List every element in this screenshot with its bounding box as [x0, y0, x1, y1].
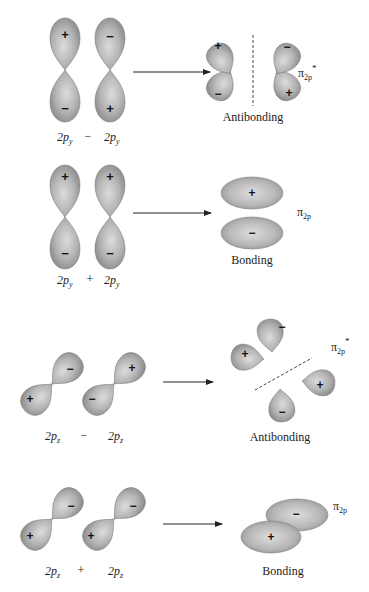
operator: − [85, 129, 92, 143]
panel-py-bonding: + − + − 2py + 2py + − Bonding π2p [50, 165, 311, 289]
sign-left-top: + [61, 169, 69, 184]
mo-sign-3: + [316, 378, 323, 392]
combination-label: 2py − 2py [57, 129, 120, 146]
mo-symbol: π2p [297, 205, 311, 221]
mo-sign-3: − [283, 40, 290, 54]
mo-sign-4: − [278, 405, 285, 419]
molecular-orbital: + − − + [202, 35, 305, 106]
molecular-orbital: − + + − [230, 318, 336, 423]
atomic-orbital-right: − + [95, 18, 125, 122]
sign-left-top: − [67, 499, 74, 513]
sign-left-bottom: + [26, 529, 33, 543]
sign-left-top: + [61, 27, 69, 42]
panel-pz-bonding: − + − + 2pz + 2pz − + Bonding π2p [15, 482, 347, 580]
operator: + [77, 562, 84, 577]
mo-type-label: Bonding [262, 564, 303, 578]
ao-label-left: 2p [57, 130, 69, 144]
atomic-orbital-left: − + [15, 482, 89, 556]
svg-text:2py: 2py [104, 130, 120, 146]
mo-sign-1: + [214, 39, 221, 53]
ao-label-left: 2p [45, 429, 57, 443]
operator: − [81, 428, 88, 442]
svg-text:2pz: 2pz [45, 429, 61, 445]
mo-type-label: Bonding [231, 253, 272, 267]
svg-text:2pz: 2pz [108, 564, 124, 580]
ao-label-right: 2p [108, 564, 120, 578]
atomic-orbital-right: − + [77, 482, 151, 556]
molecular-orbital: − + [241, 499, 328, 553]
svg-text:2py: 2py [57, 130, 73, 146]
mo-sign-2: − [214, 87, 221, 101]
mo-sign-front: + [267, 530, 274, 544]
nodal-plane [255, 358, 312, 390]
lobe-bottom [95, 217, 125, 269]
ao-label-right: 2p [108, 429, 120, 443]
mo-symbol: π2p* [298, 63, 317, 82]
sign-right-bottom: + [87, 529, 94, 543]
sign-left-bottom: − [61, 101, 69, 116]
combination-label: 2pz + 2pz [45, 562, 124, 580]
combination-label: 2py + 2py [57, 271, 120, 289]
sign-right-bottom: − [88, 392, 95, 406]
combination-label: 2pz − 2pz [45, 428, 124, 445]
lobe-top [95, 18, 125, 70]
sign-right-top: − [129, 499, 136, 513]
pi-orbital-diagram: + − − + 2py − 2py + − − + Antibonding π2… [0, 0, 369, 592]
mo-symbol: π2p [333, 499, 347, 515]
mo-sign-top: + [248, 186, 255, 200]
sign-right-top: + [128, 361, 135, 375]
atomic-orbital-left: + − [50, 165, 80, 269]
mo-sign-2: + [241, 347, 248, 361]
atomic-orbital-right: + − [95, 165, 125, 269]
atomic-orbital-left: − + [15, 347, 89, 421]
sign-left-bottom: − [61, 246, 69, 261]
mo-sign-1: − [278, 320, 285, 334]
sign-left-top: − [66, 362, 73, 376]
ao-label-left: 2p [45, 564, 57, 578]
mo-type-label: Antibonding [223, 110, 284, 124]
atomic-orbital-right: + − [77, 347, 151, 421]
molecular-orbital: + − [221, 177, 283, 249]
svg-text:2pz: 2pz [45, 564, 61, 580]
lobe-bottom [50, 217, 80, 269]
mo-sign-back: − [292, 507, 299, 521]
sign-right-top: − [106, 29, 114, 44]
svg-text:2pz: 2pz [108, 429, 124, 445]
svg-text:2py: 2py [104, 273, 120, 289]
ao-label-left: 2p [57, 273, 69, 287]
lobe-top [50, 18, 80, 70]
mo-symbol: π2p* [331, 336, 350, 356]
sign-left-bottom: + [26, 392, 33, 406]
mo-type-label: Antibonding [250, 430, 311, 444]
mo-sign-bottom: − [248, 226, 255, 240]
ao-label-right: 2p [104, 130, 116, 144]
panel-pz-antibonding: − + + − 2pz − 2pz − + + − Antibonding π2… [15, 318, 350, 445]
sign-right-top: + [106, 169, 114, 184]
operator: + [86, 271, 93, 286]
ao-label-right: 2p [104, 273, 116, 287]
panel-py-antibonding: + − − + 2py − 2py + − − + Antibonding π2… [50, 18, 317, 146]
sign-right-bottom: + [106, 101, 114, 116]
svg-text:2py: 2py [57, 273, 73, 289]
atomic-orbital-left: + − [50, 18, 80, 122]
sign-right-bottom: − [106, 246, 114, 261]
mo-sign-4: + [285, 86, 292, 100]
